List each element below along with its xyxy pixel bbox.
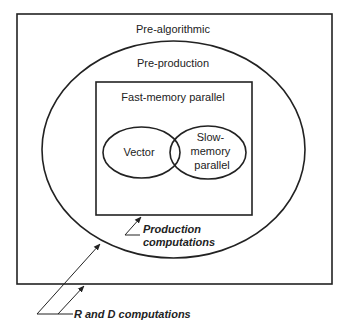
vector-label: Vector <box>123 146 155 158</box>
fast-memory-parallel-label: Fast-memory parallel <box>121 91 224 103</box>
slow-memory-line-1: Slow- <box>197 131 225 143</box>
production-line-2: computations <box>143 236 215 248</box>
production-arrow-icon <box>125 217 141 235</box>
r-and-d-arrows-icon <box>37 244 100 314</box>
production-computations-label: Production computations <box>143 223 215 248</box>
r-and-d-computations-label: R and D computations <box>74 308 191 320</box>
production-line-1: Production <box>143 223 201 235</box>
venn-diagram: Pre-algorithmic Pre-production Fast-memo… <box>0 0 346 335</box>
slow-memory-line-3: parallel <box>194 159 229 171</box>
pre-production-label: Pre-production <box>137 57 209 69</box>
slow-memory-parallel-label: Slow- memory parallel <box>191 131 234 171</box>
slow-memory-line-2: memory <box>191 145 231 157</box>
pre-algorithmic-label: Pre-algorithmic <box>136 23 210 35</box>
